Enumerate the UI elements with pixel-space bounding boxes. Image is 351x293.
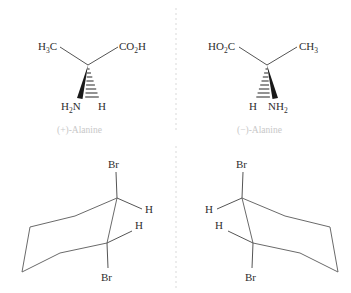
label-bromine-bottom: Br	[245, 271, 256, 283]
label-hydrogen-bottom: H	[135, 219, 143, 231]
chair-ring	[242, 198, 338, 272]
solid-wedge-amine	[77, 65, 88, 99]
bond-axial-bromine-top	[242, 172, 243, 198]
molecule-dibromocyclohexane-right: Br H H Br	[205, 158, 338, 283]
label-bromine-bottom: Br	[101, 271, 112, 283]
bond-carboxyl-right	[88, 47, 118, 65]
hashed-wedge-hydrogen	[256, 69, 270, 97]
bond-methyl-right	[267, 47, 297, 65]
label-hydrogen-lower-left: H	[249, 100, 257, 112]
molecule-dibromocyclohexane-left: Br H H Br	[22, 158, 153, 283]
label-carboxyl-right: CO2H	[119, 40, 146, 55]
label-hydrogen-lower-right: H	[98, 100, 106, 112]
bond-axial-bromine-bottom	[252, 243, 253, 268]
chair-ring	[22, 198, 117, 272]
label-bromine-top: Br	[236, 158, 247, 170]
caption-minus-alanine: (−)-Alanine	[237, 125, 282, 136]
bond-equatorial-hydrogen-top	[217, 198, 242, 209]
bond-axial-bromine-top	[116, 172, 117, 198]
solid-wedge-amine	[267, 65, 278, 99]
caption-plus-alanine: (+)-Alanine	[57, 125, 102, 136]
bond-axial-bromine-bottom	[107, 243, 108, 268]
structures-canvas: H3C CO2H H2N H (+)-Alanine	[0, 0, 351, 293]
molecule-alanine-plus: H3C CO2H H2N H (+)-Alanine	[38, 40, 146, 136]
chemistry-figure: H3C CO2H H2N H (+)-Alanine	[0, 0, 351, 293]
label-carboxyl-left: HO2C	[208, 40, 235, 55]
bond-carboxyl-left	[239, 47, 267, 65]
label-amine-lower-right: NH2	[268, 100, 288, 115]
label-methyl-right: CH3	[299, 40, 318, 55]
label-bromine-top: Br	[108, 158, 119, 170]
label-hydrogen-top: H	[205, 203, 213, 215]
hashed-wedge-hydrogen	[85, 69, 99, 97]
bond-equatorial-hydrogen-top	[117, 198, 142, 209]
label-amine-lower-left: H2N	[61, 100, 81, 115]
bond-methyl-left	[60, 47, 88, 65]
bond-equatorial-hydrogen-bottom	[228, 231, 253, 243]
label-methyl-left: H3C	[38, 40, 57, 55]
label-hydrogen-top: H	[145, 203, 153, 215]
label-hydrogen-bottom: H	[215, 219, 223, 231]
bond-equatorial-hydrogen-bottom	[107, 231, 132, 243]
molecule-alanine-minus: HO2C CH3 H NH2 (−)-Alanine	[208, 40, 318, 136]
